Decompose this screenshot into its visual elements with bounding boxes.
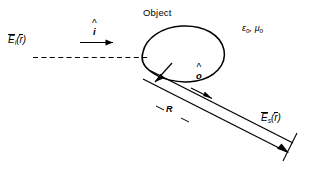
range-label: R	[166, 105, 173, 114]
scattered-field-subscript: s	[268, 117, 271, 124]
medium-parameters-label: εo, μo	[242, 24, 263, 33]
incident-field-paren-close: )	[23, 34, 26, 45]
diagram-canvas	[0, 0, 314, 180]
range-end-tick	[283, 133, 297, 161]
range-leader-tick-right	[181, 118, 189, 122]
observation-direction-label: o	[196, 71, 202, 81]
incident-field-symbol: E	[8, 34, 15, 45]
incident-field-subscript: i	[15, 39, 16, 46]
incident-field-position-symbol: r	[19, 34, 22, 45]
permeability-symbol: μ	[255, 23, 260, 33]
observation-direction-symbol: o	[196, 71, 202, 81]
scattered-field-label: Es(r)	[261, 112, 281, 123]
incident-field-label: Ei(r)	[8, 34, 26, 45]
permittivity-subscript: o	[246, 27, 250, 34]
incident-direction-arrowhead	[106, 40, 114, 46]
incident-direction-symbol: i	[93, 27, 96, 37]
incident-direction-label: i	[93, 27, 96, 37]
range-leader-tick-left	[156, 106, 164, 110]
permeability-subscript: o	[260, 27, 264, 34]
scattering-diagram-figure: Object Ei(r) i εo, μo o R Es(r)	[0, 0, 314, 180]
object-label: Object	[143, 8, 172, 18]
scattered-field-position-symbol: r	[274, 112, 277, 123]
scattered-field-arrowhead	[277, 144, 289, 154]
scattered-field-symbol: E	[261, 112, 268, 123]
scattered-field-paren-close: )	[278, 112, 281, 123]
